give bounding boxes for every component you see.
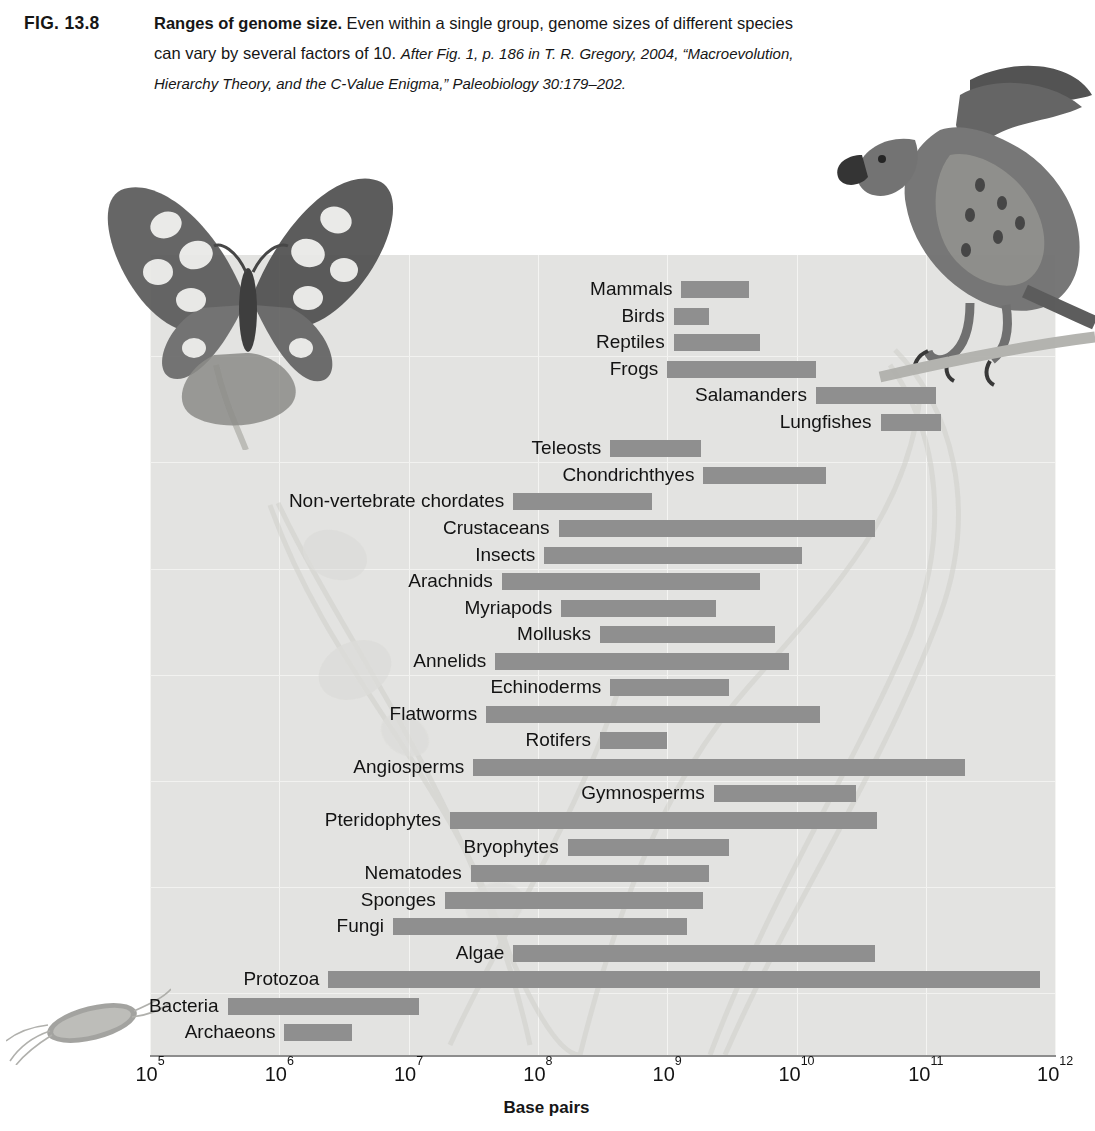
category-label: Chondrichthyes: [562, 463, 694, 487]
range-bar: [881, 414, 942, 431]
x-axis-tick-label: 106: [265, 1062, 294, 1086]
range-bar: [681, 281, 748, 298]
x-axis-tick-label: 105: [135, 1062, 164, 1086]
category-label: Myriapods: [465, 596, 553, 620]
chart-row: Bryophytes: [0, 835, 1093, 859]
caption-citation-1: After Fig. 1, p. 186 in T. R. Gregory, 2…: [401, 45, 794, 62]
range-bar: [816, 387, 936, 404]
range-bar: [600, 732, 667, 749]
chart-row: Nematodes: [0, 861, 1093, 885]
category-label: Gymnosperms: [581, 781, 705, 805]
chart-row: Archaeons: [0, 1020, 1093, 1044]
range-bar: [228, 998, 419, 1015]
range-bar: [703, 467, 826, 484]
category-label: Mammals: [590, 277, 672, 301]
range-bar: [284, 1024, 351, 1041]
x-axis-tick-label: 109: [653, 1062, 682, 1086]
x-axis-tick-label: 107: [394, 1062, 423, 1086]
range-bar: [674, 308, 709, 325]
range-bar: [495, 653, 789, 670]
chart-row: Annelids: [0, 649, 1093, 673]
category-label: Protozoa: [243, 967, 319, 991]
range-bar: [559, 520, 876, 537]
caption-citation-2: Hierarchy Theory, and the C-Value Enigma…: [24, 69, 1063, 99]
category-label: Rotifers: [526, 728, 591, 752]
range-bar: [471, 865, 709, 882]
chart-row: Gymnosperms: [0, 781, 1093, 805]
category-label: Sponges: [361, 888, 436, 912]
chart-row: Birds: [0, 304, 1093, 328]
category-label: Nematodes: [365, 861, 462, 885]
chart-row: Angiosperms: [0, 755, 1093, 779]
category-label: Mollusks: [517, 622, 591, 646]
category-label: Non-vertebrate chordates: [289, 489, 504, 513]
range-bar: [473, 759, 964, 776]
chart-row: Mollusks: [0, 622, 1093, 646]
category-label: Arachnids: [408, 569, 493, 593]
chart-row: Mammals: [0, 277, 1093, 301]
range-bar: [393, 918, 687, 935]
caption-title: Ranges of genome size.: [154, 14, 342, 32]
range-bar: [714, 785, 856, 802]
caption-body-1: Even within a single group, genome sizes…: [347, 14, 793, 32]
x-axis-tick-label: 1011: [908, 1062, 943, 1086]
chart-row: Insects: [0, 543, 1093, 567]
category-label: Algae: [456, 941, 505, 965]
range-bar: [674, 334, 761, 351]
category-label: Crustaceans: [443, 516, 550, 540]
category-label: Frogs: [610, 357, 659, 381]
chart-row: Teleosts: [0, 436, 1093, 460]
category-label: Angiosperms: [353, 755, 464, 779]
category-label: Flatworms: [390, 702, 478, 726]
chart-row: Salamanders: [0, 383, 1093, 407]
chart-row: Fungi: [0, 914, 1093, 938]
category-label: Annelids: [413, 649, 486, 673]
chart-row: Myriapods: [0, 596, 1093, 620]
x-axis-tick-label: 1012: [1037, 1062, 1073, 1086]
chart-row: Chondrichthyes: [0, 463, 1093, 487]
range-bar: [561, 600, 716, 617]
chart-row: Bacteria: [0, 994, 1093, 1018]
category-label: Bryophytes: [464, 835, 559, 859]
range-bar: [610, 679, 729, 696]
range-bar: [502, 573, 761, 590]
caption-line-1: FIG. 13.8Ranges of genome size. Even wit…: [24, 8, 1063, 38]
category-label: Salamanders: [695, 383, 807, 407]
x-axis-title: Base pairs: [0, 1098, 1093, 1118]
figure-number: FIG. 13.8: [24, 8, 154, 38]
category-label: Lungfishes: [780, 410, 872, 434]
category-label: Bacteria: [149, 994, 219, 1018]
range-bar: [513, 493, 651, 510]
x-axis-tick-label: 1010: [778, 1062, 814, 1086]
figure-caption: FIG. 13.8Ranges of genome size. Even wit…: [0, 0, 1093, 99]
chart-row: Algae: [0, 941, 1093, 965]
chart-row: Crustaceans: [0, 516, 1093, 540]
category-label: Pteridophytes: [325, 808, 441, 832]
x-axis-tick-label: 108: [523, 1062, 552, 1086]
chart-row: Protozoa: [0, 967, 1093, 991]
chart-row: Arachnids: [0, 569, 1093, 593]
range-bar: [450, 812, 877, 829]
chart-row: Lungfishes: [0, 410, 1093, 434]
category-label: Birds: [621, 304, 664, 328]
category-label: Insects: [475, 543, 535, 567]
range-bar: [513, 945, 875, 962]
chart-row: Non-vertebrate chordates: [0, 489, 1093, 513]
chart-row: Pteridophytes: [0, 808, 1093, 832]
range-bar: [544, 547, 801, 564]
chart-row: Flatworms: [0, 702, 1093, 726]
caption-body-2: can vary by several factors of 10.: [154, 44, 396, 62]
chart-row: Sponges: [0, 888, 1093, 912]
range-bar: [568, 839, 730, 856]
category-label: Teleosts: [532, 436, 602, 460]
range-bar: [667, 361, 816, 378]
range-bar: [445, 892, 704, 909]
chart-row: Rotifers: [0, 728, 1093, 752]
range-bar: [486, 706, 820, 723]
category-label: Fungi: [337, 914, 385, 938]
caption-line-2: can vary by several factors of 10. After…: [24, 38, 1063, 69]
category-label: Echinoderms: [490, 675, 601, 699]
chart-row: Echinoderms: [0, 675, 1093, 699]
chart-row: Reptiles: [0, 330, 1093, 354]
category-label: Reptiles: [596, 330, 665, 354]
